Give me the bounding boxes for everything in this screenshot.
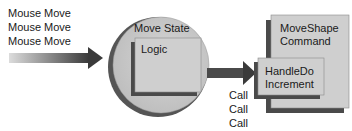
command-title-line1: MoveShape [280, 22, 339, 35]
command-title-line2: Command [280, 35, 331, 48]
call-arrow [207, 61, 256, 85]
input-event-label: Mouse Move [8, 7, 71, 20]
input-event-label: Mouse Move [8, 35, 71, 48]
call-label: Call [229, 103, 248, 116]
call-label: Call [229, 117, 248, 130]
input-event-label: Mouse Move [8, 21, 71, 34]
call-label: Call [229, 89, 248, 102]
input-arrow [9, 47, 103, 69]
state-title: Move State [134, 22, 190, 35]
handler-line1: HandleDo [265, 65, 314, 78]
handler-line2: Increment [265, 78, 314, 91]
logic-label: Logic [141, 43, 167, 56]
